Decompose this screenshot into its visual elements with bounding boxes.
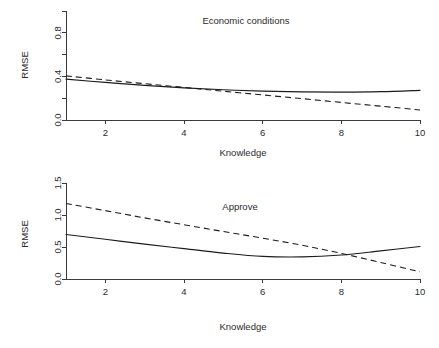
y-tick-label: 0.0	[52, 113, 63, 126]
axes-economic-conditions: 0.00.40.8246810	[52, 11, 426, 138]
x-tick-label: 6	[260, 127, 265, 138]
chart-panel-approve: 0.00.51.01.5246810 Approve Knowledge RMS…	[0, 174, 439, 348]
x-axis-label-economic-conditions: Knowledge	[219, 147, 266, 158]
y-tick-label: 0.8	[52, 26, 63, 39]
series-group-economic-conditions	[66, 76, 420, 110]
y-tick-label: 1.0	[52, 208, 63, 221]
axes-approve: 0.00.51.01.5246810	[52, 176, 426, 297]
x-tick-label: 2	[103, 286, 108, 297]
figure-canvas: 0.00.40.8246810 Economic conditions Know…	[0, 0, 439, 348]
x-tick-label: 6	[260, 286, 265, 297]
x-tick-label: 4	[181, 286, 186, 297]
y-tick-label: 0.0	[52, 272, 63, 285]
x-tick-label: 8	[339, 286, 344, 297]
x-tick-label: 10	[415, 127, 426, 138]
plot-area-approve: 0.00.51.01.5246810 Approve Knowledge RMS…	[0, 174, 439, 348]
plot-area-economic-conditions: 0.00.40.8246810 Economic conditions Know…	[0, 0, 439, 174]
series-line-dashed	[66, 203, 420, 271]
x-axis-label-approve: Knowledge	[219, 321, 266, 332]
x-tick-label: 10	[415, 286, 426, 297]
x-tick-label: 8	[339, 127, 344, 138]
series-line-solid	[66, 235, 420, 258]
y-axis-label-economic-conditions: RMSE	[19, 51, 30, 78]
y-tick-label: 0.5	[52, 240, 63, 253]
panel-title-approve: Approve	[222, 201, 257, 212]
panel-title-economic-conditions: Economic conditions	[202, 15, 289, 26]
y-tick-label: 0.4	[52, 70, 63, 83]
y-tick-label: 1.5	[52, 176, 63, 189]
series-line-dashed	[66, 76, 420, 110]
y-axis-label-approve: RMSE	[19, 220, 30, 247]
x-tick-label: 4	[181, 127, 186, 138]
chart-panel-economic-conditions: 0.00.40.8246810 Economic conditions Know…	[0, 0, 439, 174]
x-tick-label: 2	[103, 127, 108, 138]
series-group-approve	[66, 203, 420, 271]
